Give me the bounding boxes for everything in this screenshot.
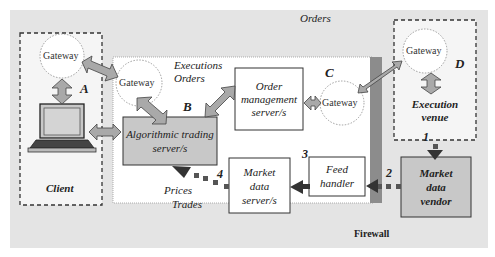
market-data-vendor-label: Market data vendor <box>401 167 471 207</box>
mds-line-2: data <box>229 180 290 192</box>
venue-line-2: venue <box>394 111 476 123</box>
step-3-marker: 3 <box>302 148 308 160</box>
venue-gateway-label: Gateway <box>406 45 442 57</box>
marker-b: B <box>183 101 192 113</box>
flow-label-executions: Executions <box>174 59 222 71</box>
marker-d: D <box>455 58 464 70</box>
step-4-marker: 4 <box>217 168 223 180</box>
prices-label: Prices <box>164 184 192 196</box>
order-mgmt-label: Order management server/s <box>235 80 303 118</box>
order-mgmt-line-2: management <box>235 93 303 105</box>
vendor-line-3: vendor <box>401 195 471 207</box>
algo-line-1: Algorithmic trading <box>123 128 217 140</box>
market-data-server-label: Market data server/s <box>229 166 290 206</box>
trades-label: Trades <box>172 198 202 210</box>
client-label: Client <box>46 182 74 194</box>
feed-line-2: handler <box>309 177 365 189</box>
algo-line-2: server/s <box>123 142 217 154</box>
internal-gateway-right-label: Gateway <box>322 97 358 109</box>
flow-label-orders: Orders <box>174 72 205 84</box>
vendor-line-1: Market <box>401 167 471 179</box>
firewall-label: Firewall <box>354 228 389 240</box>
mds-line-1: Market <box>229 166 290 178</box>
feed-line-1: Feed <box>309 163 365 175</box>
marker-a: A <box>80 83 89 95</box>
order-mgmt-line-1: Order <box>235 80 303 92</box>
step-2-marker: 2 <box>386 167 392 179</box>
vendor-line-2: data <box>401 181 471 193</box>
client-gateway-label: Gateway <box>43 50 79 62</box>
venue-line-1: Execution <box>394 98 476 110</box>
order-mgmt-line-3: server/s <box>235 106 303 118</box>
diagram-shapes <box>0 0 495 257</box>
algo-server-label: Algorithmic trading server/s <box>123 128 217 154</box>
feed-handler-label: Feed handler <box>309 163 365 189</box>
execution-venue-label: Execution venue <box>394 98 476 123</box>
marker-c: C <box>325 67 334 79</box>
mds-line-3: server/s <box>229 194 290 206</box>
orders-top-label: Orders <box>300 12 331 24</box>
step-1-marker: 1 <box>423 131 429 143</box>
internal-gateway-left-label: Gateway <box>119 77 155 89</box>
